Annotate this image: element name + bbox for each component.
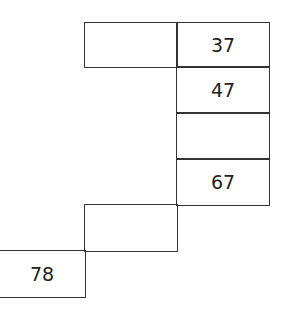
cell-r5-c1: 78 bbox=[0, 250, 86, 298]
cell-r3-c3: 67 bbox=[176, 158, 270, 206]
cell-r2-c3 bbox=[176, 112, 270, 160]
cell-r4-c2 bbox=[84, 204, 178, 252]
cell-r0-c2 bbox=[84, 22, 178, 68]
cell-r1-c3: 47 bbox=[176, 66, 270, 114]
cell-r0-c3: 37 bbox=[176, 22, 270, 68]
